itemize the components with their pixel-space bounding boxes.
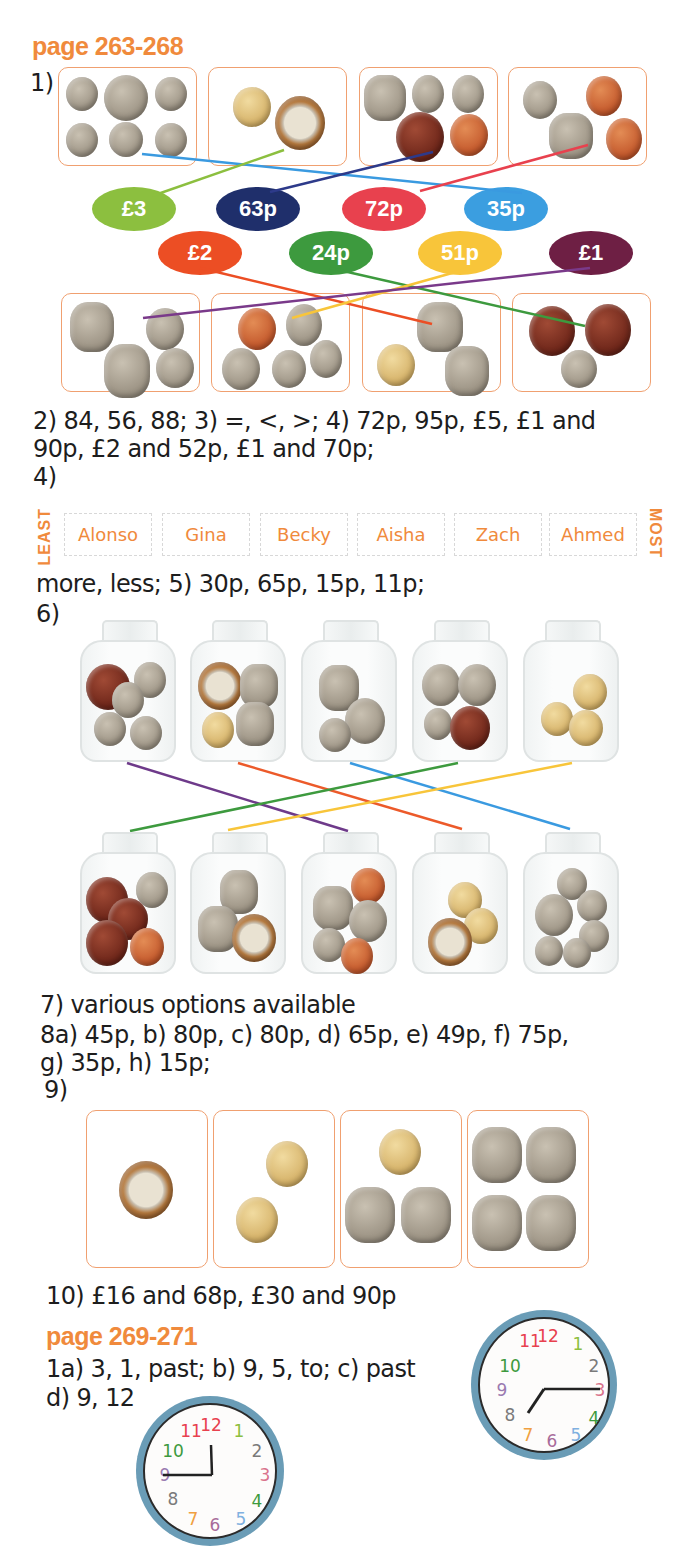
coin-box-bottom-1 bbox=[61, 293, 200, 392]
clock-hands bbox=[145, 1405, 279, 1541]
coin-5p bbox=[310, 340, 342, 378]
coin-1-pound bbox=[377, 344, 415, 386]
coin-20p bbox=[236, 702, 274, 746]
coin-1-pound bbox=[236, 1197, 278, 1243]
coin-5p bbox=[130, 716, 162, 750]
name-box-becky: Becky bbox=[260, 513, 348, 556]
coin-1-pound bbox=[266, 1141, 308, 1187]
value-oval-3-pounds: £3 bbox=[92, 187, 176, 231]
oval-label: £2 bbox=[188, 240, 212, 266]
name-box-ahmed: Ahmed bbox=[549, 513, 637, 556]
jar-bottom-2 bbox=[190, 832, 286, 972]
oval-label: 35p bbox=[487, 196, 525, 222]
question-4-label: 4) bbox=[33, 464, 56, 491]
coin-2-pound bbox=[232, 914, 276, 962]
value-oval-35p: 35p bbox=[464, 187, 548, 231]
jar-top-2 bbox=[190, 620, 286, 760]
coin-1p bbox=[606, 118, 642, 160]
answer-q7: 7) various options available bbox=[40, 992, 355, 1019]
coin-1p bbox=[351, 868, 385, 904]
coin-box-q9-2 bbox=[213, 1110, 335, 1268]
coin-5p bbox=[319, 718, 351, 752]
coin-2p bbox=[585, 304, 631, 356]
coin-1-pound bbox=[233, 87, 271, 127]
coin-2p bbox=[86, 920, 128, 966]
coin-50p bbox=[526, 1195, 576, 1251]
page-heading-269-271: page 269-271 bbox=[46, 1322, 197, 1351]
question-9-label: 9) bbox=[44, 1077, 67, 1104]
coin-10p bbox=[422, 664, 460, 706]
coin-10p bbox=[535, 894, 573, 936]
coin-50p bbox=[345, 1187, 395, 1243]
value-oval-72p: 72p bbox=[342, 187, 426, 231]
coin-5p bbox=[563, 938, 591, 968]
coin-5p bbox=[272, 350, 306, 388]
coin-50p bbox=[104, 75, 148, 121]
coin-10p bbox=[349, 900, 387, 942]
coin-5p bbox=[286, 304, 322, 346]
coin-box-q9-4 bbox=[467, 1110, 589, 1268]
oval-label: £1 bbox=[579, 240, 603, 266]
coin-1-pound bbox=[541, 702, 573, 736]
question-1-label: 1) bbox=[30, 70, 53, 97]
coin-2p bbox=[396, 112, 444, 162]
coin-5p bbox=[94, 712, 126, 746]
coin-1p bbox=[586, 76, 622, 116]
coin-50p bbox=[401, 1187, 451, 1243]
answers-q8-line1: 8a) 45p, b) 80p, c) 80p, d) 65p, e) 49p,… bbox=[40, 1022, 569, 1049]
least-label: LEAST bbox=[36, 508, 54, 565]
jar-bottom-3 bbox=[301, 832, 397, 972]
answers-q2-q4-line2: 90p, £2 and 52p, £1 and 70p; bbox=[33, 436, 374, 463]
clock-face: 12 1 2 3 4 5 6 7 8 9 10 11 bbox=[478, 1317, 610, 1453]
coin-box-q9-1 bbox=[86, 1110, 208, 1268]
coin-box-top-1 bbox=[58, 67, 197, 166]
coin-50p bbox=[472, 1195, 522, 1251]
coin-1p bbox=[341, 938, 373, 974]
coin-10p bbox=[66, 77, 98, 111]
coin-20p bbox=[364, 75, 406, 121]
value-oval-63p: 63p bbox=[216, 187, 300, 231]
coin-1-pound bbox=[202, 712, 234, 748]
jar-bottom-5 bbox=[523, 832, 619, 972]
coin-10p bbox=[155, 123, 187, 157]
coin-5p bbox=[156, 348, 194, 388]
coin-5p bbox=[535, 936, 563, 966]
coin-10p bbox=[452, 75, 484, 113]
coin-5p bbox=[577, 890, 607, 922]
page-heading-263-268: page 263-268 bbox=[32, 32, 183, 61]
value-oval-51p: 51p bbox=[418, 231, 502, 275]
coin-50p bbox=[526, 1127, 576, 1183]
name-box-alonso: Alonso bbox=[64, 513, 152, 556]
coin-20p bbox=[549, 113, 593, 159]
most-label: MOST bbox=[646, 508, 664, 558]
coin-1-pound bbox=[379, 1129, 421, 1175]
coin-5p bbox=[112, 682, 144, 718]
coin-2-pound bbox=[198, 662, 242, 710]
answers-q8-line2: g) 35p, h) 15p; bbox=[40, 1050, 210, 1077]
coin-box-bottom-2 bbox=[211, 293, 350, 392]
coin-2-pound bbox=[428, 918, 472, 966]
answers-s2-line2: d) 9, 12 bbox=[46, 1385, 135, 1412]
coin-20p bbox=[70, 302, 114, 352]
name-box-zach: Zach bbox=[454, 513, 542, 556]
oval-label: 51p bbox=[441, 240, 479, 266]
oval-label: 24p bbox=[312, 240, 350, 266]
question-6-label: 6) bbox=[36, 601, 59, 628]
jar-top-4 bbox=[412, 620, 508, 760]
jar-bottom-4 bbox=[412, 832, 508, 972]
coin-1p bbox=[238, 308, 276, 350]
coin-10p bbox=[109, 122, 143, 157]
clock-quarter-past-seven: 12 1 2 3 4 5 6 7 8 9 10 11 bbox=[471, 1310, 617, 1460]
coin-5p bbox=[561, 350, 597, 388]
coin-2-pound bbox=[119, 1161, 173, 1219]
clock-face: 12 1 2 3 4 5 6 7 8 9 10 11 bbox=[143, 1403, 277, 1539]
coin-10p bbox=[412, 75, 444, 113]
coin-box-top-2 bbox=[208, 67, 347, 166]
coin-1-pound bbox=[569, 710, 603, 746]
answers-q2-q4-line1: 2) 84, 56, 88; 3) =, <, >; 4) 72p, 95p, … bbox=[33, 408, 595, 435]
value-oval-2-pounds: £2 bbox=[158, 231, 242, 275]
coin-1p bbox=[130, 928, 164, 966]
answers-s2-line1: 1a) 3, 1, past; b) 9, 5, to; c) past bbox=[46, 1356, 415, 1383]
oval-label: 63p bbox=[239, 196, 277, 222]
coin-20p bbox=[417, 302, 463, 352]
